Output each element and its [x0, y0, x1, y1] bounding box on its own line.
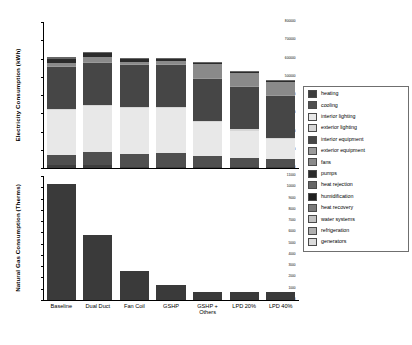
- y-axis-tick: [41, 113, 44, 114]
- y-axis-tick: [41, 232, 44, 233]
- legend-item: humidification: [308, 193, 353, 201]
- legend-label: cooling: [321, 103, 338, 109]
- y-axis-tick: [41, 210, 44, 211]
- legend-label: interior equipment: [321, 137, 363, 143]
- bar-segment-cooling: [266, 159, 295, 167]
- y-axis-tick: [41, 277, 44, 278]
- bar-segment-heating: [193, 292, 222, 300]
- bar-segment-fans: [120, 62, 149, 65]
- electricity-plot: 0100000200000300000400000500000600000700…: [43, 22, 299, 168]
- bar-segment-heat-rejection: [193, 62, 222, 63]
- bar-segment-fans: [47, 63, 76, 66]
- bar-segment-interior-equipment: [156, 65, 185, 107]
- legend-label: exterior equipment: [321, 148, 365, 154]
- legend-label: heat recovery: [321, 205, 353, 211]
- stacked-bar: [120, 22, 149, 168]
- legend-label: heating: [321, 91, 338, 97]
- legend-label: exterior lighting: [321, 125, 357, 131]
- category-label: GSHP: [153, 303, 190, 309]
- bar-segment-heating: [156, 285, 185, 300]
- x-axis-line: [43, 168, 299, 169]
- stacked-bar: [266, 22, 295, 168]
- legend-swatch: [308, 147, 317, 155]
- legend-swatch: [308, 215, 317, 223]
- bar-segment-fans: [193, 64, 222, 78]
- bar-segment-pumps: [230, 72, 259, 73]
- y-axis-tick: [41, 187, 44, 188]
- bar: [230, 176, 259, 300]
- y-axis-line: [43, 22, 44, 168]
- y-axis-tick: [41, 244, 44, 245]
- bar: [120, 176, 149, 300]
- bar-segment-interior-lighting: [266, 139, 295, 159]
- legend-swatch: [308, 170, 317, 178]
- legend-swatch: [308, 181, 317, 189]
- stacked-bar: [156, 22, 185, 168]
- bar: [156, 176, 185, 300]
- bar-segment-exterior-equipment: [83, 62, 112, 63]
- bar-segment-heating: [83, 235, 112, 300]
- bar-segment-fans: [156, 61, 185, 64]
- bar-segment-cooling: [230, 158, 259, 167]
- y-axis-tick: [41, 59, 44, 60]
- category-label: GSHP + Others: [189, 303, 226, 316]
- bar-segment-exterior-lighting: [83, 105, 112, 106]
- bar-segment-interior-equipment: [83, 63, 112, 105]
- bar-segment-cooling: [120, 154, 149, 168]
- y-axis-tick: [41, 266, 44, 267]
- bar-segment-heating: [47, 184, 76, 300]
- category-label: LPD 40%: [262, 303, 299, 309]
- bar-segment-heating: [120, 271, 149, 300]
- bar-segment-interior-equipment: [47, 67, 76, 109]
- y-axis-tick: [41, 221, 44, 222]
- bar-segment-interior-lighting: [230, 131, 259, 158]
- legend-swatch: [308, 204, 317, 212]
- bar-segment-exterior-lighting: [156, 107, 185, 108]
- bar-segment-cooling: [83, 152, 112, 166]
- bar-segment-cooling: [193, 156, 222, 167]
- y-axis-tick: [41, 95, 44, 96]
- bar-segment-exterior-equipment: [120, 64, 149, 65]
- y-axis-tick: [41, 289, 44, 290]
- bar-segment-exterior-lighting: [47, 109, 76, 110]
- legend-label: generators: [321, 239, 346, 245]
- bar-segment-heating: [230, 167, 259, 168]
- legend-swatch: [308, 136, 317, 144]
- bar-segment-exterior-equipment: [193, 78, 222, 79]
- legend-item: cooling: [308, 101, 338, 109]
- natural-gas-axis-title: Natural Gas Consumption (Therms): [14, 176, 22, 300]
- y-axis-tick: [41, 168, 44, 169]
- legend-item: generators: [308, 238, 346, 246]
- bar-segment-heat-rejection: [83, 52, 112, 54]
- category-label: Baseline: [43, 303, 80, 309]
- bar-segment-interior-equipment: [230, 87, 259, 129]
- legend-item: heating: [308, 90, 338, 98]
- legend-swatch: [308, 113, 317, 121]
- stacked-bar: [193, 22, 222, 168]
- legend-swatch: [308, 101, 317, 109]
- y-axis-line: [43, 176, 44, 300]
- legend-swatch: [308, 238, 317, 246]
- bar-segment-pumps: [193, 63, 222, 64]
- legend-swatch: [308, 124, 317, 132]
- bar-segment-interior-equipment: [120, 65, 149, 107]
- legend-item: heat recovery: [308, 204, 353, 212]
- stacked-bar: [47, 22, 76, 168]
- x-axis-line: [43, 300, 299, 301]
- y-axis-tick: [41, 40, 44, 41]
- bar-segment-heat-rejection: [266, 80, 295, 81]
- bar-segment-exterior-lighting: [193, 121, 222, 122]
- y-axis-tick: [41, 77, 44, 78]
- bar-segment-heat-rejection: [47, 57, 76, 58]
- bar-segment-exterior-equipment: [47, 66, 76, 67]
- bar-segment-interior-equipment: [266, 95, 295, 137]
- bar-segment-exterior-lighting: [266, 138, 295, 139]
- chart-legend: heatingcoolinginterior lightingexterior …: [303, 86, 409, 252]
- bar-segment-fans: [266, 82, 295, 95]
- bar-segment-interior-lighting: [120, 108, 149, 153]
- bar-segment-fans: [230, 73, 259, 86]
- bar-segment-pumps: [266, 80, 295, 81]
- bar-segment-interior-lighting: [193, 122, 222, 156]
- category-label: LPD 20%: [226, 303, 263, 309]
- legend-label: fans: [321, 160, 331, 166]
